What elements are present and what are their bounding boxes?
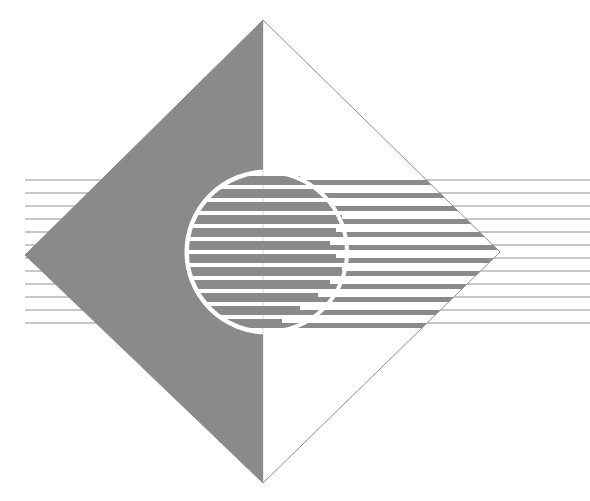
stripe-band xyxy=(181,228,336,237)
stripe-band xyxy=(181,215,342,224)
stripe-band xyxy=(181,280,330,289)
stripe-band xyxy=(181,254,336,263)
stripe-band xyxy=(181,267,342,276)
stripe-band xyxy=(181,241,330,250)
geometric-emblem-svg: Abstract emblem: gray diamond with a str… xyxy=(0,0,590,501)
artwork-canvas: Abstract emblem: gray diamond with a str… xyxy=(0,0,590,501)
